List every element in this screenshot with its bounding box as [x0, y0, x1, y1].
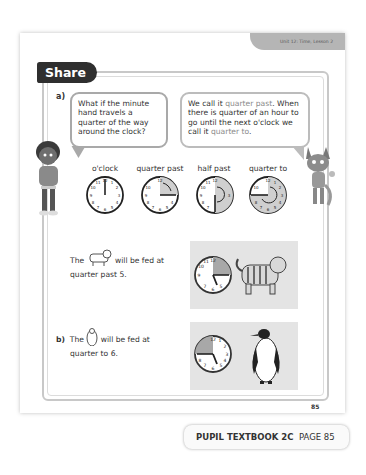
- sentence-text: will be fed at: [101, 335, 150, 344]
- svg-text:1: 1: [111, 180, 114, 185]
- book-title: PUPIL TEXTBOOK 2C: [196, 432, 293, 442]
- part-a-label: a): [56, 92, 65, 101]
- svg-text:2: 2: [279, 185, 282, 190]
- svg-text:8: 8: [92, 200, 95, 205]
- svg-text:6: 6: [267, 207, 270, 212]
- clock-oclock-icon: 123691245781011: [85, 175, 125, 215]
- svg-text:3: 3: [118, 193, 121, 198]
- svg-text:12: 12: [210, 258, 216, 263]
- svg-text:7: 7: [152, 205, 155, 210]
- svg-text:9: 9: [145, 193, 148, 198]
- svg-text:6: 6: [212, 287, 215, 292]
- sentence-text: The: [70, 335, 84, 344]
- svg-text:8: 8: [202, 200, 205, 205]
- clock-quarter-to-icon: 123612457810: [248, 175, 288, 215]
- svg-text:12: 12: [265, 178, 271, 183]
- svg-text:8: 8: [255, 200, 258, 205]
- svg-text:5: 5: [274, 205, 277, 210]
- svg-text:5: 5: [220, 284, 223, 289]
- svg-text:8: 8: [147, 200, 150, 205]
- svg-text:4: 4: [116, 200, 119, 205]
- svg-text:1: 1: [219, 338, 222, 343]
- svg-text:2: 2: [116, 185, 119, 190]
- sentence-text: will be fed at: [115, 256, 164, 265]
- svg-text:11: 11: [203, 259, 209, 264]
- page-number: 85: [311, 403, 319, 410]
- share-title: Share: [37, 62, 97, 83]
- svg-text:12: 12: [102, 178, 108, 183]
- textbook-banner: PUPIL TEXTBOOK 2C PAGE 85: [184, 425, 349, 449]
- svg-text:10: 10: [200, 185, 206, 190]
- book-page: PAGE 85: [299, 432, 335, 442]
- sentence-text: The: [70, 256, 84, 265]
- boy-character-icon: [32, 138, 66, 218]
- svg-text:5: 5: [111, 205, 114, 210]
- clock-quarter-past-icon: 1269457810: [140, 175, 180, 215]
- svg-text:3: 3: [226, 352, 229, 357]
- svg-text:2: 2: [224, 344, 227, 349]
- svg-text:12: 12: [210, 337, 216, 342]
- svg-text:10: 10: [145, 185, 151, 190]
- svg-text:8: 8: [199, 358, 202, 363]
- textbook-page: Unit 12: Time, Lesson 2 Share a) What if…: [20, 33, 345, 413]
- svg-text:5: 5: [220, 363, 223, 368]
- clock-label-quarter-past: quarter past: [130, 164, 190, 173]
- svg-text:3: 3: [228, 193, 231, 198]
- highlight-quarter-to: quarter to: [211, 127, 249, 136]
- clock-label-quarter-to: quarter to: [240, 164, 296, 173]
- svg-text:7: 7: [204, 363, 207, 368]
- svg-text:6: 6: [104, 207, 107, 212]
- svg-text:11: 11: [205, 180, 211, 185]
- clock-tiger-scene: 1269571011: [190, 241, 298, 309]
- svg-text:6: 6: [212, 366, 215, 371]
- unit-tab: Unit 12: Time, Lesson 2: [250, 33, 345, 50]
- clock-label-half-past: half past: [192, 164, 236, 173]
- svg-text:3: 3: [281, 193, 284, 198]
- sentence-text: quarter to 6.: [56, 349, 118, 358]
- sentence-text: quarter past 5.: [70, 270, 127, 279]
- svg-text:7: 7: [207, 205, 210, 210]
- svg-text:9: 9: [90, 193, 93, 198]
- svg-text:12: 12: [212, 178, 218, 183]
- svg-text:9: 9: [200, 193, 203, 198]
- bubble-text: We call it: [188, 99, 225, 108]
- clock-penguin-scene: 1236124578: [190, 322, 298, 390]
- svg-text:10: 10: [198, 264, 204, 269]
- part-b-label: b): [56, 335, 65, 344]
- highlight-quarter-past: quarter past: [225, 99, 272, 108]
- tiger-picture: 1269571011: [190, 241, 298, 309]
- svg-text:1: 1: [274, 180, 277, 185]
- svg-text:7: 7: [204, 284, 207, 289]
- svg-text:4: 4: [279, 200, 282, 205]
- cat-character-icon: [300, 145, 336, 215]
- svg-text:6: 6: [159, 207, 162, 212]
- svg-text:9: 9: [198, 273, 201, 278]
- tiger-icon: [237, 257, 286, 294]
- svg-text:7: 7: [97, 205, 100, 210]
- penguin-picture: 1236124578: [190, 322, 298, 390]
- speech-bubble-right: We call it quarter past. When there is q…: [180, 92, 310, 148]
- svg-text:7: 7: [260, 205, 263, 210]
- svg-text:4: 4: [224, 358, 227, 363]
- svg-text:5: 5: [166, 205, 169, 210]
- bubble-text: .: [249, 127, 251, 136]
- penguin-small-icon: [86, 328, 98, 346]
- svg-text:10: 10: [253, 185, 259, 190]
- clock-label-oclock: o'clock: [85, 164, 125, 173]
- svg-text:10: 10: [90, 185, 96, 190]
- svg-text:4: 4: [171, 200, 174, 205]
- svg-text:11: 11: [95, 180, 101, 185]
- speech-bubble-left: What if the minute hand travels a quarte…: [70, 92, 168, 148]
- tiger-sentence: The will be fed at quarter past 5.: [70, 249, 164, 282]
- tiger-small-icon: [87, 249, 113, 267]
- svg-text:12: 12: [157, 178, 163, 183]
- penguin-sentence: b) The will be fed at quarter to 6.: [56, 328, 150, 361]
- penguin-icon: [250, 329, 280, 384]
- clock-half-past-icon: 1239781011: [195, 175, 235, 215]
